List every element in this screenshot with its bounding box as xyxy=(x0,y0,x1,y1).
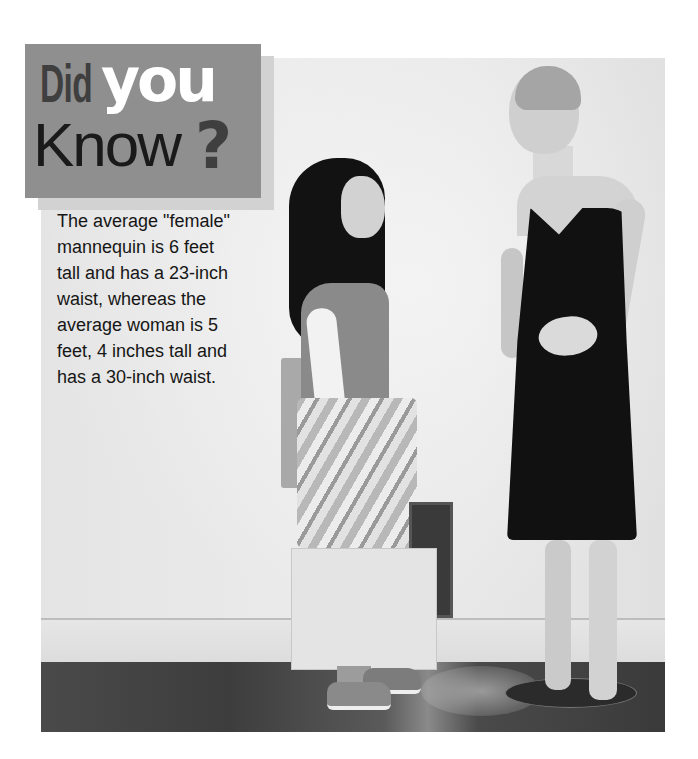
mannequin-stand-base xyxy=(505,678,637,708)
fact-paragraph: The average "female" mannequin is 6 feet… xyxy=(57,208,272,390)
fact-line: tall and has a 23-inch xyxy=(57,260,272,286)
fact-line: feet, 4 inches tall and xyxy=(57,338,272,364)
woman-face xyxy=(341,176,385,238)
fact-line: average woman is 5 xyxy=(57,312,272,338)
sneaker xyxy=(327,682,391,710)
fact-line: has a 30-inch waist. xyxy=(57,364,272,390)
title-word-you: you xyxy=(101,50,215,110)
question-mark-icon: ? xyxy=(195,114,232,178)
did-you-know-badge: Did you Know ? xyxy=(25,44,261,198)
striped-skirt xyxy=(297,398,417,548)
black-dress xyxy=(507,208,637,540)
fact-line: mannequin is 6 feet xyxy=(57,234,272,260)
mannequin-leg xyxy=(545,540,571,690)
fact-line: waist, whereas the xyxy=(57,286,272,312)
title-word-know: Know xyxy=(33,114,180,176)
fact-line: The average "female" xyxy=(57,208,272,234)
white-shopping-bag xyxy=(291,548,437,670)
title-word-did: Did xyxy=(40,56,92,110)
mannequin-leg xyxy=(589,540,617,700)
